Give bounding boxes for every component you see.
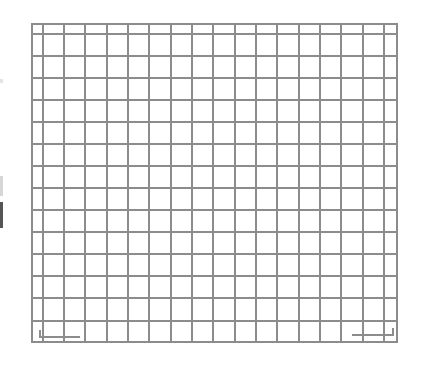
bottom-left-corner-mark <box>40 330 80 337</box>
grid-lines <box>32 24 397 342</box>
grid-border <box>32 24 397 342</box>
bottom-right-corner-mark <box>352 328 393 335</box>
grid-canvas <box>0 0 423 374</box>
